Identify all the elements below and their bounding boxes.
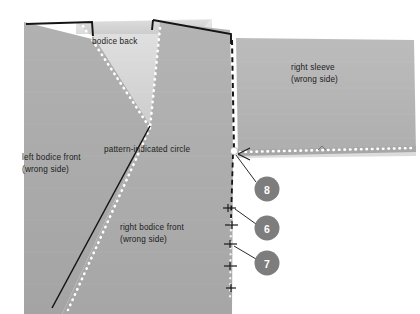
label-left-bodice-front: left bodice front [22,153,81,162]
label-right-bodice-front-sub: (wrong side) [120,235,167,244]
diagram-svg: 8 6 7 bodice back left bodice front (wro… [0,0,420,314]
pattern-diagram-canvas: 8 6 7 bodice back left bodice front (wro… [0,0,420,314]
label-bodice-back: bodice back [92,37,138,46]
label-right-sleeve-sub: (wrong side) [291,75,338,84]
callout-6-number: 6 [264,223,270,235]
callout-8-number: 8 [264,184,270,196]
callout-8[interactable]: 8 [255,177,280,202]
label-right-bodice-front: right bodice front [120,223,184,232]
callout-6[interactable]: 6 [255,216,280,241]
callout-7[interactable]: 7 [255,251,280,276]
pattern-indicated-circle-marker [230,147,238,155]
label-left-bodice-front-sub: (wrong side) [22,165,69,174]
label-pattern-indicated-circle: pattern-indicated circle [104,145,191,154]
label-right-sleeve: right sleeve [291,63,335,72]
callout-7-number: 7 [264,258,270,270]
